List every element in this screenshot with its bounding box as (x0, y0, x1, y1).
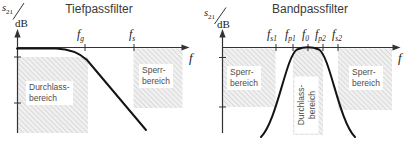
tick-label-fp1: fp1 (285, 27, 296, 42)
y-axis-arrowhead (219, 29, 225, 38)
s21-symbol: s21 (204, 7, 215, 18)
diagram-canvas (0, 0, 409, 144)
stopband-label: Sperr- bereich (139, 64, 173, 88)
bandpass-title: Bandpassfilter (250, 2, 370, 16)
s-subscript: 21 (6, 8, 13, 16)
s-subscript: 21 (208, 13, 215, 21)
db-unit-label: dB (217, 18, 230, 30)
stopband-right-label: Sperr- bereich (349, 66, 383, 90)
tick-label-fp2: fp2 (315, 27, 326, 42)
tick-label-fs1: fs1 (267, 27, 277, 42)
y-axis-arrowhead (14, 29, 20, 38)
tick-label-fg: fg (77, 27, 84, 42)
passband-label-rotated: Durchlass- bereich (295, 77, 319, 134)
tiefpass-title: Tiefpassfilter (39, 2, 159, 16)
tick-label-fs: fs (129, 27, 135, 42)
db-unit-label: dB (15, 17, 28, 29)
s21-symbol: s21 (2, 2, 13, 13)
filter-response-diagrams: Tiefpassfilter s21 dB fg fs f Durchlass-… (0, 0, 409, 144)
passband-label: Durchlass- bereich (26, 81, 73, 105)
stopband-left-label: Sperr- bereich (227, 66, 261, 90)
frequency-axis-label: f (398, 50, 402, 66)
tick-label-f0: f0 (302, 27, 309, 42)
tick-label-fs2: fs2 (332, 27, 342, 42)
frequency-axis-label: f (189, 50, 193, 66)
